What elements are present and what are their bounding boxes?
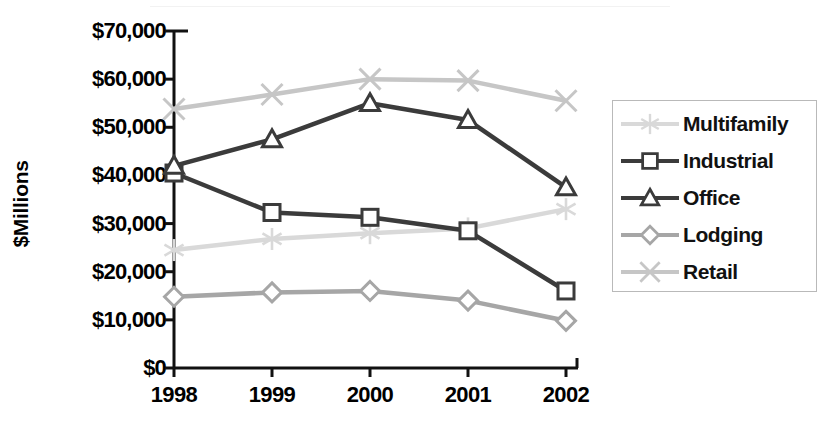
- legend-item-multifamily[interactable]: Multifamily: [613, 105, 818, 143]
- x-tick-label: 1998: [119, 382, 229, 408]
- legend-label: Retail: [683, 260, 738, 284]
- legend-swatch-x-icon: [619, 259, 681, 285]
- legend-item-lodging[interactable]: Lodging: [613, 216, 818, 254]
- series-lodging: [165, 281, 576, 330]
- diamond-icon: [557, 311, 576, 330]
- square-icon: [264, 204, 280, 220]
- legend-swatch-asterisk-icon: [619, 111, 681, 137]
- square-icon: [558, 283, 574, 299]
- square-icon: [362, 209, 378, 225]
- legend-label: Office: [683, 186, 740, 210]
- diamond-icon: [641, 226, 658, 243]
- data-point-diamond-marker: [557, 311, 576, 330]
- diamond-icon: [459, 291, 478, 310]
- series-multifamily: [164, 198, 575, 261]
- legend-item-retail[interactable]: Retail: [613, 253, 818, 291]
- line-chart: $Millions $0$10,000$20,000$30,000$40,000…: [0, 0, 836, 435]
- x-tick-label: 2002: [511, 382, 621, 408]
- data-point-square-marker: [460, 223, 476, 239]
- x-tick-label: 2001: [413, 382, 523, 408]
- diamond-icon: [165, 287, 184, 306]
- legend-swatch-triangle-icon: [619, 185, 681, 211]
- data-point-diamond-marker: [263, 283, 282, 302]
- data-point-diamond-marker: [641, 226, 658, 243]
- data-point-square-marker: [558, 283, 574, 299]
- data-point-diamond-marker: [361, 281, 380, 300]
- x-tick-label: 2000: [315, 382, 425, 408]
- data-point-square-marker: [264, 204, 280, 220]
- series-line-office: [174, 103, 566, 187]
- data-point-square-marker: [643, 154, 658, 169]
- series-office: [165, 94, 576, 195]
- data-point-diamond-marker: [165, 287, 184, 306]
- data-point-square-marker: [362, 209, 378, 225]
- square-icon: [460, 223, 476, 239]
- legend-label: Multifamily: [683, 112, 788, 136]
- legend-item-industrial[interactable]: Industrial: [613, 142, 818, 180]
- legend-swatch-square-icon: [619, 148, 681, 174]
- x-tick-label: 1999: [217, 382, 327, 408]
- square-icon: [643, 154, 658, 169]
- data-point-diamond-marker: [459, 291, 478, 310]
- diamond-icon: [361, 281, 380, 300]
- legend-label: Lodging: [683, 223, 763, 247]
- chart-legend: MultifamilyIndustrialOfficeLodgingRetail: [612, 100, 817, 292]
- diamond-icon: [263, 283, 282, 302]
- legend-item-office[interactable]: Office: [613, 179, 818, 217]
- x-axis-tick-labels: 19981999200020012002: [0, 382, 836, 418]
- legend-label: Industrial: [683, 149, 774, 173]
- legend-swatch-diamond-icon: [619, 222, 681, 248]
